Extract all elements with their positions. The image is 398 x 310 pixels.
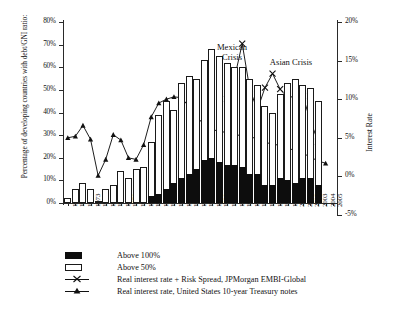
bar-above-50 [117,171,124,203]
x-tick [159,203,160,206]
x-tick [280,203,281,206]
y-right-tick [338,215,342,216]
legend-label-above-50: Above 50% [117,263,156,272]
y-left-tick [59,113,63,114]
x-tick [326,203,327,206]
legend-label-risk-spread: Real interest rate + Risk Spread, JPMorg… [117,275,306,284]
y-right-tick [338,99,342,100]
bar-above-50 [140,167,147,203]
bar-above-50 [155,115,162,203]
bar-above-100 [186,174,193,203]
bar-above-100 [284,180,291,203]
legend-item-risk-spread: Real interest rate + Risk Spread, JPMorg… [62,273,306,285]
y-right-tick [338,61,342,62]
legend-label-us-treasury: Real interest rate, United States 10-yea… [117,287,298,296]
bar-above-50 [95,201,102,203]
bar-above-100 [292,183,299,203]
bar-above-100 [193,169,200,203]
bar-above-100 [163,189,170,203]
x-tick [257,203,258,206]
annotation-asian-crisis: Asian Crisis [256,58,326,68]
y-left-tick-label: 20% [22,153,56,161]
y-left-tick-label: 60% [22,62,56,70]
x-tick [204,203,205,206]
y-left-tick [59,180,63,181]
chart-legend: Above 100% Above 50% Real interest rate … [62,249,306,297]
x-tick [144,203,145,206]
bar-above-100 [148,196,155,203]
bar-above-50 [64,198,71,203]
bar-above-100 [178,178,185,203]
bar-above-100 [307,178,314,203]
y-left-tick-label: 40% [22,108,56,116]
x-tick-label: 2005 [336,198,344,207]
x-tick [98,203,99,206]
x-tick [235,203,236,206]
y-right-tick-label: 15% [345,56,375,64]
bar-above-100 [246,174,253,203]
x-tick [91,203,92,206]
x-tick [219,203,220,206]
x-tick [273,203,274,206]
legend-swatch-above-50-icon [62,264,117,271]
x-tick [75,203,76,206]
legend-label-above-100: Above 100% [117,251,160,260]
bar-above-100 [231,165,238,203]
bar-above-100 [261,185,268,203]
x-tick [310,203,311,206]
bar-above-100 [208,158,215,203]
bar-above-100 [299,178,306,203]
bar-above-100 [170,183,177,203]
y-left-tick-label: 10% [22,175,56,183]
y-left-tick-label: 80% [22,17,56,25]
x-tick [295,203,296,206]
y-left-tick [59,67,63,68]
x-tick [212,203,213,206]
annotation-mexican-crisis: Mexican Crisis [203,43,261,62]
bar-above-50 [110,185,117,203]
bar-above-50 [102,189,109,203]
y-left-tick [59,203,63,204]
bar-above-100 [254,174,261,203]
chart-figure: Percentage of developing countries with … [0,0,398,310]
bar-above-100 [155,194,162,203]
y-right-tick-label: 5% [345,133,375,141]
x-tick [250,203,251,206]
y-axis-right-line [337,20,338,216]
x-tick [121,203,122,206]
y-right-tick-label: 0% [345,171,375,179]
bar-above-50 [133,169,140,203]
x-tick [113,203,114,206]
bar-above-50 [79,183,86,203]
x-tick [227,203,228,206]
bar-above-50 [87,189,94,203]
x-tick [318,203,319,206]
y-left-tick [59,158,63,159]
y-left-tick-label: 50% [22,85,56,93]
annotation-mexican-crisis-line2: Crisis [222,52,242,62]
x-tick [288,203,289,206]
plot-area [64,22,337,203]
y-left-tick-label: 70% [22,40,56,48]
y-right-tick-label: -5% [345,210,375,218]
x-tick [128,203,129,206]
y-right-tick-label: 20% [345,17,375,25]
legend-line-triangle-icon [62,287,117,295]
x-tick [166,203,167,206]
x-tick [303,203,304,206]
x-tick [136,203,137,206]
bar-series-group [64,22,337,203]
legend-item-above-50: Above 50% [62,261,306,273]
y-left-tick-label: 30% [22,130,56,138]
bar-above-100 [277,178,284,203]
bar-above-50 [148,142,155,203]
bar-above-100 [269,185,276,203]
legend-swatch-above-100-icon [62,252,117,259]
y-left-tick-label: 0% [22,198,56,206]
y-left-tick [59,22,63,23]
bar-above-100 [224,165,231,203]
annotation-mexican-crisis-line1: Mexican [217,42,247,52]
x-tick [174,203,175,206]
y-right-tick [338,176,342,177]
x-tick [242,203,243,206]
